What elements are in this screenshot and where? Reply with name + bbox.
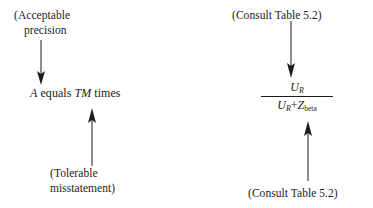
- callout-consult-table-top: (Consult Table 5.2): [232, 8, 322, 23]
- callout-acceptable-precision-line1: (Acceptable: [14, 9, 70, 21]
- callout-acceptable-precision: (Acceptable precision: [14, 8, 134, 37]
- callout-consult-table-bottom: (Consult Table 5.2): [248, 186, 338, 201]
- arrow-consult-top-down-icon: [283, 21, 299, 83]
- callout-tolerable-misstatement-line1: (Tolerable: [50, 167, 98, 179]
- callout-acceptable-precision-line2: precision: [14, 23, 134, 38]
- fraction-numerator: UR: [261, 80, 333, 96]
- fraction-denominator-second-subscript: beta: [304, 104, 317, 113]
- equation-term-tm: TM: [74, 86, 91, 100]
- fraction-denominator-first-base: U: [277, 98, 286, 112]
- equation-connector: equals: [40, 86, 71, 100]
- diagram-canvas: (Acceptable precision A equals TM times …: [0, 0, 373, 208]
- fraction-numerator-base: U: [290, 80, 299, 94]
- arrow-consult-bottom-up-icon: [300, 121, 316, 185]
- arrow-tolerable-up-icon: [84, 108, 100, 170]
- fraction-numerator-subscript: R: [299, 86, 304, 95]
- fraction-ur-over-ur-plus-zbeta: UR UR+Zbeta: [261, 80, 333, 113]
- equation-suffix: times: [94, 86, 120, 100]
- callout-tolerable-misstatement-line2: misstatement): [50, 181, 180, 196]
- fraction-denominator-operator: +: [291, 98, 298, 112]
- equation-a-equals-tm-times: A equals TM times: [30, 86, 121, 101]
- fraction-denominator: UR+Zbeta: [261, 97, 333, 113]
- arrow-precision-down-icon: [33, 40, 49, 90]
- callout-tolerable-misstatement: (Tolerable misstatement): [50, 166, 180, 195]
- fraction-denominator-first-subscript: R: [286, 104, 291, 113]
